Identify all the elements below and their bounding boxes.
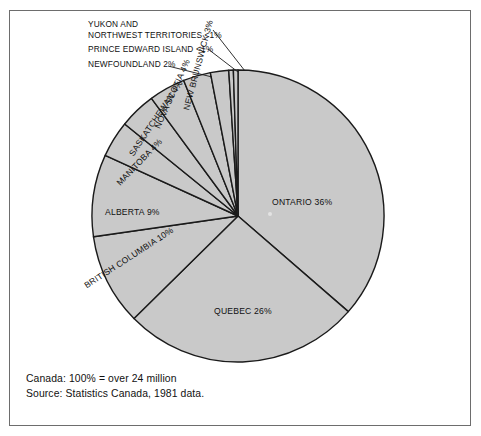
print-artifact-dot bbox=[268, 212, 272, 216]
callout-prince-edward-island: PRINCE EDWARD ISLAND <1% bbox=[88, 44, 213, 55]
slice-label-alberta: ALBERTA 9% bbox=[105, 207, 160, 217]
pie-chart-figure: YUKON AND NORTHWEST TERRITORIES <1% PRIN… bbox=[0, 0, 481, 436]
slice-label-ontario: ONTARIO 36% bbox=[272, 197, 332, 207]
pie-chart-canvas bbox=[0, 0, 481, 436]
footnote-total: Canada: 100% = over 24 million bbox=[26, 372, 204, 387]
chart-footnote: Canada: 100% = over 24 million Source: S… bbox=[26, 372, 204, 401]
callout-newfoundland: NEWFOUNDLAND 2% bbox=[88, 59, 176, 70]
footnote-source: Source: Statistics Canada, 1981 data. bbox=[26, 387, 204, 402]
slice-label-quebec: QUEBEC 26% bbox=[214, 306, 272, 316]
